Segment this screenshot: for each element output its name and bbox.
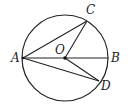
chord-ad: [23, 58, 99, 81]
label-d: D: [100, 79, 111, 93]
label-o: O: [55, 43, 65, 57]
radius-od: [65, 58, 99, 81]
point-a: [22, 57, 24, 59]
label-b: B: [110, 51, 120, 65]
label-a: A: [10, 51, 20, 65]
radius-oc: [65, 21, 87, 58]
geometry-diagram: A B C D O: [0, 0, 128, 108]
label-c: C: [86, 3, 95, 17]
